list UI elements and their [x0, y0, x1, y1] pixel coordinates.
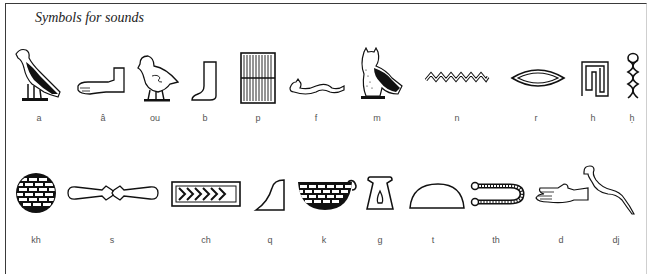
water-ripple-icon — [424, 70, 490, 84]
sound-label: a — [36, 113, 41, 123]
sound-label: k — [322, 235, 327, 245]
mouth-icon — [510, 68, 566, 88]
jar-stand-icon — [365, 175, 395, 213]
hill-slope-icon — [254, 178, 286, 212]
sound-label: ch — [201, 235, 211, 245]
sound-label: s — [110, 235, 115, 245]
sound-label: g — [377, 235, 382, 245]
basket-with-handle-icon — [296, 180, 358, 212]
sound-label: â — [100, 113, 105, 123]
sound-label: th — [492, 235, 500, 245]
placenta-sieve-icon — [15, 172, 57, 214]
vulture-icon — [14, 48, 62, 104]
door-bolt-icon — [66, 182, 160, 204]
foot-icon — [190, 60, 220, 102]
sound-label: p — [255, 113, 260, 123]
quail-chick-icon — [136, 54, 180, 102]
sound-label: m — [373, 113, 381, 123]
tethering-rope-icon — [470, 181, 526, 207]
sound-label: kh — [31, 235, 41, 245]
horned-viper-icon — [288, 78, 346, 96]
sound-label: ḥ — [629, 113, 634, 123]
sound-label: f — [315, 113, 318, 123]
sound-label: dj — [612, 235, 619, 245]
sound-label: n — [454, 113, 459, 123]
sound-label: b — [202, 113, 207, 123]
sound-label: r — [535, 113, 538, 123]
owl-icon — [358, 48, 404, 104]
pool-icon — [171, 181, 241, 207]
sound-label: ou — [150, 113, 160, 123]
stool-mat-icon — [240, 52, 276, 104]
figure-frame — [5, 3, 647, 274]
bread-loaf-icon — [408, 182, 466, 210]
cobra-icon — [582, 164, 638, 216]
forearm-icon — [76, 66, 128, 96]
sound-label: q — [267, 235, 272, 245]
figure-title: Symbols for sounds — [35, 10, 144, 26]
twisted-flax-icon — [624, 52, 642, 100]
sound-label: d — [558, 235, 563, 245]
sound-label: t — [432, 235, 435, 245]
sound-label: h — [590, 113, 595, 123]
reed-shelter-icon — [580, 60, 610, 98]
